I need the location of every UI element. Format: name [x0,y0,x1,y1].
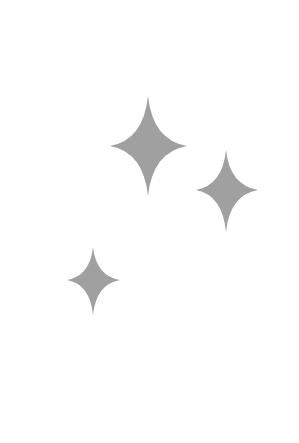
sparkle-icon-medium [196,150,258,232]
sparkles-canvas [0,0,299,443]
sparkle-icon-large [110,96,187,196]
sparkle-icon-small [67,247,120,315]
